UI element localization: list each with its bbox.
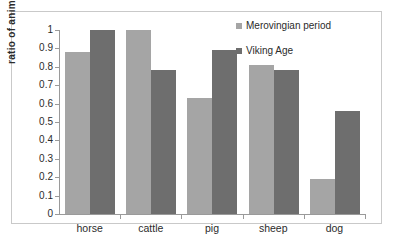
bar[interactable]: [212, 50, 237, 214]
y-axis-tick-label: 0.7: [39, 78, 53, 91]
bar[interactable]: [187, 98, 212, 214]
y-axis-tick-label: 0: [47, 207, 53, 220]
y-axis-tick-label: 0.1: [39, 189, 53, 202]
y-axis-tick-label: 0.9: [39, 41, 53, 54]
bar-group: [59, 30, 120, 214]
legend-item[interactable]: Merovingian period: [236, 20, 366, 31]
x-axis-category-label: cattle: [120, 222, 181, 235]
y-axis-tick-label: 0.6: [39, 97, 53, 110]
y-axis-tick-label: 0.8: [39, 60, 53, 73]
bar[interactable]: [310, 179, 335, 214]
y-axis-tick-label: 0.5: [39, 115, 53, 128]
bar-group: [181, 30, 242, 214]
x-axis-line: [59, 214, 365, 215]
x-axis-category-label: horse: [59, 222, 120, 235]
y-axis-tick-mark: [55, 214, 59, 215]
y-axis-tick-label: 0.2: [39, 170, 53, 183]
x-axis-tick-mark: [365, 214, 366, 219]
x-axis-tick-mark: [243, 214, 244, 219]
legend-item[interactable]: Viking Age: [236, 45, 366, 56]
y-axis-tick-label: 0.4: [39, 133, 53, 146]
x-axis-category-label: sheep: [243, 222, 304, 235]
x-axis-tick-mark: [304, 214, 305, 219]
bar[interactable]: [126, 30, 151, 214]
bar[interactable]: [65, 52, 90, 214]
x-axis-tick-mark: [120, 214, 121, 219]
x-axis-tick-mark: [181, 214, 182, 219]
chart-frame: 10.90.80.70.60.50.40.30.20.10 horsecattl…: [11, 11, 382, 224]
bar[interactable]: [90, 30, 115, 214]
chart-legend: Merovingian periodViking Age: [236, 20, 366, 70]
x-axis-category-label: dog: [304, 222, 365, 235]
x-axis-category-label: pig: [181, 222, 242, 235]
legend-label: Viking Age: [246, 45, 293, 56]
bar[interactable]: [249, 65, 274, 214]
legend-swatch-icon: [236, 48, 242, 54]
bar[interactable]: [151, 70, 176, 214]
legend-swatch-icon: [236, 23, 242, 29]
y-axis-title: ratio of animals: [6, 0, 17, 64]
y-axis-tick-label: 0.3: [39, 152, 53, 165]
bar[interactable]: [335, 111, 360, 214]
bar-group: [120, 30, 181, 214]
legend-label: Merovingian period: [246, 20, 331, 31]
y-axis-tick-label: 1: [47, 23, 53, 36]
bar[interactable]: [274, 70, 299, 214]
